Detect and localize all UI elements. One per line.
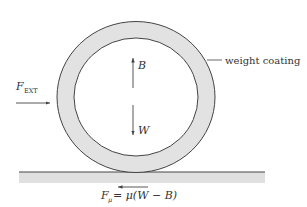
friction-subscript: μ [108, 196, 112, 204]
seabed-ground [19, 172, 265, 183]
pipe-force-diagram: weight coating B W F EXT F μ = μ(W − B) [0, 0, 307, 207]
external-force-label: F [15, 80, 24, 93]
weight-coating-label: weight coating [225, 55, 301, 66]
buoyancy-label: B [137, 59, 146, 72]
pipe-interior [74, 38, 198, 156]
friction-equation: = μ(W − B) [113, 189, 177, 202]
weight-label: W [138, 124, 151, 137]
external-force-subscript: EXT [24, 87, 38, 95]
